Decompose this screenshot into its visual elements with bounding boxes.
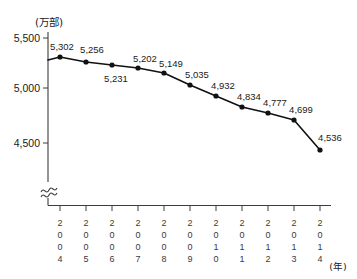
x-axis-unit-label: (年) <box>329 261 346 272</box>
y-axis-break-icon <box>41 188 57 197</box>
svg-text:1: 1 <box>291 242 296 252</box>
data-point-2006 <box>109 62 114 67</box>
data-point-2014 <box>317 147 322 152</box>
data-point-2012 <box>265 110 270 115</box>
y-axis-unit-label: (万部) <box>35 16 63 28</box>
data-label-2009: 5,035 <box>185 69 209 80</box>
data-label-2005: 5,256 <box>80 44 104 55</box>
svg-text:3: 3 <box>291 254 296 264</box>
data-point-2004 <box>57 54 62 59</box>
svg-text:2: 2 <box>317 218 322 228</box>
data-label-2007: 5,202 <box>133 53 157 64</box>
x-tick-label-2004: 2 0 0 4 <box>57 218 62 264</box>
x-tick-marks <box>60 206 320 212</box>
svg-text:0: 0 <box>187 242 192 252</box>
svg-text:2: 2 <box>135 218 140 228</box>
x-tick-label-2006: 2 0 0 6 <box>109 218 114 264</box>
svg-text:2: 2 <box>291 218 296 228</box>
data-label-2004: 5,302 <box>50 41 74 52</box>
data-point-2007 <box>135 65 140 70</box>
svg-text:2: 2 <box>83 218 88 228</box>
data-label-2011: 4,834 <box>237 91 261 102</box>
x-tick-label-2014: 2 0 1 4 <box>317 218 322 264</box>
line-chart-figure: (万部) 5,500 5,000 4,500 <box>0 0 357 279</box>
data-label-2006: 5,231 <box>104 73 128 84</box>
svg-text:0: 0 <box>187 230 192 240</box>
svg-text:0: 0 <box>83 230 88 240</box>
svg-text:0: 0 <box>265 230 270 240</box>
data-point-2011 <box>239 104 244 109</box>
svg-text:5: 5 <box>83 254 88 264</box>
y-tick-label-4500: 4,500 <box>14 137 40 149</box>
x-tick-label-2009: 2 0 0 9 <box>187 218 192 264</box>
data-label-2010: 4,932 <box>211 80 235 91</box>
svg-text:0: 0 <box>161 242 166 252</box>
svg-text:0: 0 <box>135 242 140 252</box>
svg-text:1: 1 <box>317 242 322 252</box>
chart-canvas: (万部) 5,500 5,000 4,500 <box>0 0 357 279</box>
data-point-2005 <box>83 59 88 64</box>
x-tick-label-2013: 2 0 1 3 <box>291 218 296 264</box>
svg-text:1: 1 <box>239 254 244 264</box>
x-tick-label-2005: 2 0 0 5 <box>83 218 88 264</box>
svg-text:0: 0 <box>109 242 114 252</box>
data-label-2013: 4,699 <box>289 104 313 115</box>
svg-text:0: 0 <box>83 242 88 252</box>
data-label-2014: 4,536 <box>318 132 342 143</box>
svg-text:6: 6 <box>109 254 114 264</box>
svg-text:0: 0 <box>291 230 296 240</box>
svg-text:4: 4 <box>57 254 62 264</box>
svg-text:1: 1 <box>213 242 218 252</box>
data-point-2009 <box>187 82 192 87</box>
y-tick-marks <box>43 38 48 143</box>
data-point-2010 <box>213 93 218 98</box>
svg-text:0: 0 <box>317 230 322 240</box>
x-tick-label-2007: 2 0 0 7 <box>135 218 140 264</box>
svg-text:2: 2 <box>161 218 166 228</box>
svg-text:0: 0 <box>213 254 218 264</box>
svg-text:2: 2 <box>187 218 192 228</box>
data-label-2012: 4,777 <box>263 97 287 108</box>
svg-text:1: 1 <box>265 242 270 252</box>
svg-text:2: 2 <box>213 218 218 228</box>
svg-text:8: 8 <box>161 254 166 264</box>
svg-text:7: 7 <box>135 254 140 264</box>
svg-text:1: 1 <box>239 242 244 252</box>
svg-text:0: 0 <box>239 230 244 240</box>
svg-text:0: 0 <box>161 230 166 240</box>
svg-text:2: 2 <box>265 218 270 228</box>
svg-text:4: 4 <box>317 254 322 264</box>
svg-text:2: 2 <box>239 218 244 228</box>
svg-text:0: 0 <box>213 230 218 240</box>
svg-text:9: 9 <box>187 254 192 264</box>
x-tick-label-2010: 2 0 1 0 <box>213 218 218 264</box>
x-tick-label-2012: 2 0 1 2 <box>265 218 270 264</box>
svg-text:2: 2 <box>265 254 270 264</box>
x-tick-label-2008: 2 0 0 8 <box>161 218 166 264</box>
svg-text:0: 0 <box>57 230 62 240</box>
svg-text:0: 0 <box>109 230 114 240</box>
svg-text:0: 0 <box>135 230 140 240</box>
y-tick-label-5000: 5,000 <box>14 82 40 94</box>
data-point-2013 <box>291 117 296 122</box>
y-tick-label-5500: 5,500 <box>14 32 40 44</box>
x-tick-label-2011: 2 0 1 1 <box>239 218 244 264</box>
data-label-2008: 5,149 <box>159 58 183 69</box>
svg-text:0: 0 <box>57 242 62 252</box>
data-point-2008 <box>161 70 166 75</box>
svg-text:2: 2 <box>109 218 114 228</box>
svg-text:2: 2 <box>57 218 62 228</box>
